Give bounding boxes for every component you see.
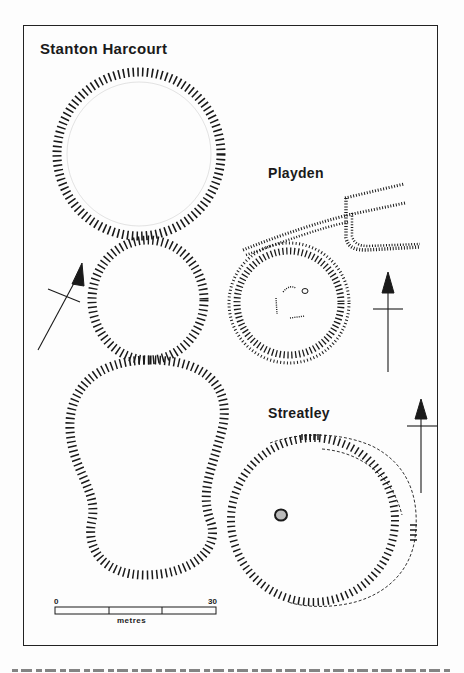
scale-unit-label: metres — [117, 616, 146, 625]
scale-start-label: 0 — [54, 597, 58, 606]
stanton-harcourt-outer-ring — [57, 72, 221, 236]
north-arrow-icon — [373, 272, 403, 372]
playden-linear-earthworks — [243, 184, 420, 255]
playden-internal-features — [276, 287, 308, 318]
north-arrow-icon — [38, 263, 84, 350]
scale-end-label: 30 — [208, 597, 217, 606]
site-plans — [0, 0, 464, 673]
stanton-harcourt-middle-ring — [92, 240, 204, 360]
streatley-bank-ticks — [302, 434, 417, 540]
stanton-harcourt-lower-enclosure — [70, 360, 224, 575]
scale-bar — [55, 607, 216, 614]
playden-ring — [229, 243, 349, 363]
streatley-inner-ring — [231, 438, 395, 602]
north-arrow-icon — [407, 399, 437, 493]
streatley-central-feature — [275, 510, 287, 521]
figure-caption-clipped — [12, 665, 452, 673]
